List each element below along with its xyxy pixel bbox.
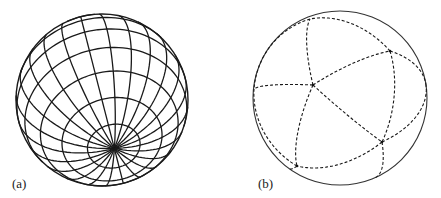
great-circle-arc [297, 142, 382, 168]
great-circle-arc [254, 89, 297, 166]
vertex-point [296, 165, 299, 168]
vertex-point [381, 141, 384, 144]
vertex-point [312, 84, 315, 87]
panel-b-label: (b) [258, 176, 273, 191]
great-circle-arc [254, 84, 313, 89]
meridian-line [62, 23, 115, 148]
great-circle-arc [313, 51, 390, 85]
panel-a-lat-long-sphere: (a) [12, 14, 188, 191]
great-circle-arc [382, 51, 395, 142]
meridian-line [81, 17, 115, 149]
lat-long-grid [16, 14, 188, 186]
great-circle-arc [254, 56, 264, 89]
great-circle-arc [390, 51, 426, 84]
great-circle-arc [307, 19, 313, 85]
great-circle-arc [296, 85, 313, 166]
great-circle-arc [264, 19, 310, 56]
figure: (a) (b) [0, 0, 441, 198]
great-circle-arcs [254, 18, 426, 178]
meridian-line [20, 68, 114, 148]
great-circle-arc [313, 85, 382, 142]
meridian-line [114, 16, 131, 149]
panel-b-tessellated-sphere: (b) [253, 11, 427, 191]
great-circle-arc [375, 142, 383, 177]
panel-a-label: (a) [12, 176, 26, 191]
great-circle-arc [310, 18, 390, 51]
parallel-line [20, 17, 161, 73]
parallel-line [17, 29, 185, 121]
vertex-point [389, 50, 392, 53]
